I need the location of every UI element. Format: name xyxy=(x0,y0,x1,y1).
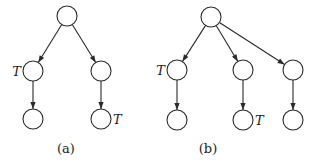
arrowhead-icon xyxy=(30,102,35,109)
arrowhead-icon xyxy=(290,103,295,110)
arrowhead-icon xyxy=(232,54,238,61)
arrowhead-icon xyxy=(277,59,284,65)
node-left-child xyxy=(167,60,187,80)
arrowhead-icon xyxy=(174,103,179,110)
tree-diagram-a: TT(a) xyxy=(12,6,123,156)
node-label-t: T xyxy=(156,63,166,78)
arrowhead-icon xyxy=(98,102,103,109)
node-root xyxy=(201,7,221,27)
diagram-canvas: TT(a) TT(b) xyxy=(0,0,314,165)
node-right-child xyxy=(283,60,303,80)
node-right-grandchild xyxy=(91,109,111,129)
diagram-caption: (b) xyxy=(199,141,217,156)
node-label-t: T xyxy=(12,64,22,79)
node-left-grandchild xyxy=(167,110,187,130)
tree-diagram-b: TT(b) xyxy=(156,7,303,156)
node-right-grandchild xyxy=(283,110,303,130)
edge-arrow xyxy=(219,22,284,64)
arrowhead-icon xyxy=(240,103,245,110)
node-left-child xyxy=(23,61,43,81)
node-left-grandchild xyxy=(23,109,43,129)
node-label-t: T xyxy=(255,113,265,128)
diagram-caption: (a) xyxy=(57,141,75,156)
arrowhead-icon xyxy=(38,55,44,62)
arrowhead-icon xyxy=(182,54,188,61)
node-middle-child xyxy=(233,60,253,80)
node-right-child xyxy=(91,61,111,81)
node-middle-grandchild xyxy=(233,110,253,130)
arrowhead-icon xyxy=(90,55,96,62)
node-label-t: T xyxy=(113,112,123,127)
node-root xyxy=(57,6,77,26)
